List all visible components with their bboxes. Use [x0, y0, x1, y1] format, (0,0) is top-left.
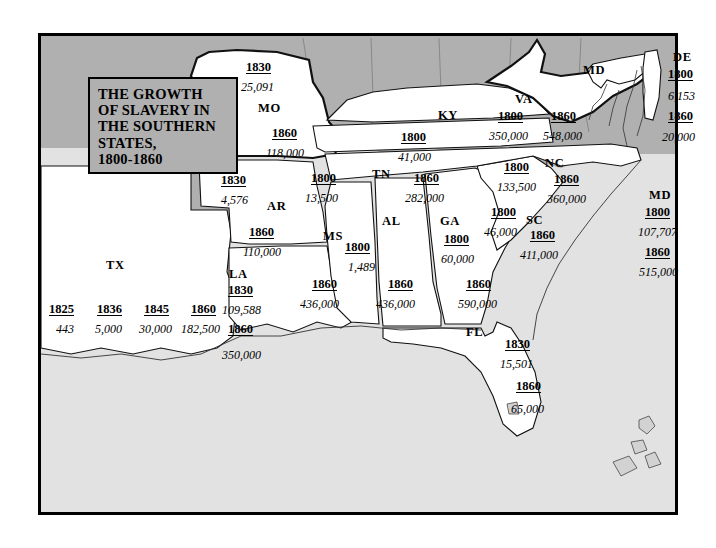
state-label-tx: TX — [106, 258, 125, 273]
fl-year-1830: 1830 — [505, 337, 530, 352]
nc-value-1800: 133,500 — [497, 180, 536, 195]
la-year-1830: 1830 — [228, 283, 253, 298]
state-label-va: VA — [515, 92, 533, 107]
state-label-ky: KY — [438, 108, 458, 123]
state-label-tn: TN — [372, 167, 391, 182]
ar-value-1830: 4,576 — [221, 193, 248, 208]
state-label-de: DE — [673, 50, 692, 65]
slavery-growth-map: THE GROWTH OF SLAVERY IN THE SOUTHERN ST… — [0, 0, 716, 548]
mo-value-1830: 25,091 — [241, 80, 274, 95]
state-label-fl: FL — [466, 325, 483, 340]
tx-value-1836: 5,000 — [95, 322, 122, 337]
tn-year-1800: 1800 — [311, 171, 336, 186]
tx-year-1836: 1836 — [97, 302, 122, 317]
de-year-1860: 1860 — [668, 109, 693, 124]
state-label-md: MD — [649, 188, 671, 203]
state-label-la: LA — [229, 267, 248, 282]
ms-year-1860: 1860 — [312, 277, 337, 292]
al-year-1860: 1860 — [388, 277, 413, 292]
state-label-ar: AR — [267, 199, 286, 214]
la-year-1860: 1860 — [228, 322, 253, 337]
ar-value-1860: 110,000 — [243, 245, 281, 260]
tn-value-1800: 13,500 — [305, 191, 338, 206]
va-year-1860: 1860 — [551, 109, 576, 124]
md-value-1800: 107,707 — [638, 225, 677, 240]
title-line-2: OF SLAVERY IN — [98, 102, 216, 118]
state-label-al: AL — [382, 214, 401, 229]
al-value-1860: 436,000 — [376, 297, 415, 312]
tx-value-1860: 182,500 — [181, 322, 220, 337]
title-line-3: THE SOUTHERN — [98, 118, 216, 134]
map-title-cartouche: THE GROWTH OF SLAVERY IN THE SOUTHERN ST… — [88, 77, 238, 174]
la-value-1860: 350,000 — [222, 348, 261, 363]
nc-value-1860: 360,000 — [547, 192, 586, 207]
tx-value-1845: 30,000 — [139, 322, 172, 337]
state-label-mo: MO — [258, 101, 281, 116]
tx-value-1825: 443 — [56, 322, 74, 337]
de-year-1800: 1800 — [668, 67, 693, 82]
mo-value-1860: 118,000 — [266, 146, 304, 161]
ga-value-1800: 60,000 — [441, 252, 474, 267]
sc-value-1860: 411,000 — [520, 248, 558, 263]
tx-year-1860: 1860 — [191, 302, 216, 317]
state-label-sc: SC — [526, 213, 543, 228]
state-label-ms: MS — [323, 229, 343, 244]
ms-year-1800: 1800 — [345, 240, 370, 255]
mo-year-1830: 1830 — [246, 60, 271, 75]
fl-value-1860: 65,000 — [511, 402, 544, 417]
md-year-1860: 1860 — [645, 245, 670, 260]
va-value-1860: 548,000 — [543, 129, 582, 144]
tx-year-1825: 1825 — [49, 302, 74, 317]
va-year-1800: 1800 — [498, 109, 523, 124]
nc-year-1860: 1860 — [554, 172, 579, 187]
ar-year-1830: 1830 — [221, 173, 246, 188]
va-value-1800: 350,000 — [489, 129, 528, 144]
sc-value-1800: 46,000 — [484, 225, 517, 240]
ms-value-1800: 1,489 — [348, 260, 375, 275]
ky-year-1800: 1800 — [401, 130, 426, 145]
sc-year-1800: 1800 — [491, 205, 516, 220]
page-title: THE GROWTH OF SLAVERY IN THE SOUTHERN ST… — [90, 79, 216, 167]
title-line-4: STATES, — [98, 135, 216, 151]
ar-year-1860: 1860 — [249, 225, 274, 240]
ga-value-1860: 590,000 — [458, 297, 497, 312]
nc-year-1800: 1800 — [504, 160, 529, 175]
md-value-1860: 515,000 — [639, 265, 678, 280]
ga-year-1800: 1800 — [444, 232, 469, 247]
ga-year-1860: 1860 — [466, 277, 491, 292]
state-label-md-map: MD — [583, 63, 605, 78]
tn-value-1860: 282,000 — [405, 191, 444, 206]
fl-year-1860: 1860 — [516, 379, 541, 394]
ky-value-1800: 41,000 — [398, 150, 431, 165]
sc-year-1860: 1860 — [530, 228, 555, 243]
md-year-1800: 1800 — [645, 205, 670, 220]
state-label-nc: NC — [545, 156, 564, 171]
tn-year-1860: 1860 — [414, 171, 439, 186]
state-label-ga: GA — [440, 214, 460, 229]
la-value-1830: 109,588 — [222, 303, 261, 318]
de-value-1860: 20,000 — [662, 130, 695, 145]
ms-value-1860: 436,000 — [300, 297, 339, 312]
mo-year-1860: 1860 — [272, 126, 297, 141]
fl-value-1830: 15,501 — [500, 357, 533, 372]
tx-year-1845: 1845 — [144, 302, 169, 317]
title-line-1: THE GROWTH — [98, 86, 216, 102]
de-value-1800: 6,153 — [668, 89, 695, 104]
title-line-5: 1800-1860 — [98, 151, 216, 167]
